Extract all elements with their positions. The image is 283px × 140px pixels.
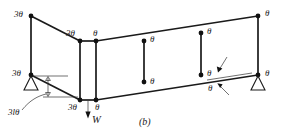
figure-container: 3θ 3θ θ θ θ θ 3θ θ θ θ 3θ θ θ 3lθ W (b) [0, 0, 283, 140]
label-left-support: 3θ [12, 69, 21, 78]
node-kink-top-right [94, 39, 99, 44]
bottom-chord-right-segment [96, 75, 258, 100]
label-kink-left: 3θ [66, 29, 75, 38]
label-middle-post-bottom: θ [150, 77, 154, 86]
figure-caption: (b) [139, 117, 151, 127]
label-middle-post-top: θ [150, 35, 154, 44]
right-pin-support-icon [251, 76, 265, 90]
label-top-right-node: θ [265, 9, 269, 18]
label-right-angle: θ [208, 84, 212, 93]
load-arrowhead [85, 112, 90, 119]
node-kink-top-left [78, 39, 83, 44]
label-right-post-bottom: θ [207, 69, 211, 78]
label-right-support-node: θ [265, 69, 269, 78]
node-top-left [29, 14, 34, 19]
node-right-post-top [199, 31, 204, 36]
label-kink-right: θ [93, 29, 97, 38]
angle-leader-upper-arrowhead [217, 67, 223, 73]
label-bottom-kink-right: θ [95, 103, 99, 112]
label-dimension: 3lθ [8, 108, 19, 117]
angle-leader-lower-arrowhead [217, 83, 222, 88]
label-bottom-kink-left: 3θ [68, 103, 77, 112]
bottom-chord-left-segment [31, 75, 80, 100]
dimension-leader-line [22, 94, 46, 110]
label-top-left-node: 3θ [14, 10, 23, 19]
node-top-right [256, 14, 261, 19]
top-chord-right-segment [96, 16, 258, 41]
node-right-post-bottom [199, 73, 204, 78]
label-right-post-top: θ [207, 27, 211, 36]
node-middle-post-top [142, 39, 147, 44]
node-kink-bottom-left [78, 98, 83, 103]
label-load: W [92, 115, 101, 126]
node-middle-post-bottom [142, 80, 147, 85]
